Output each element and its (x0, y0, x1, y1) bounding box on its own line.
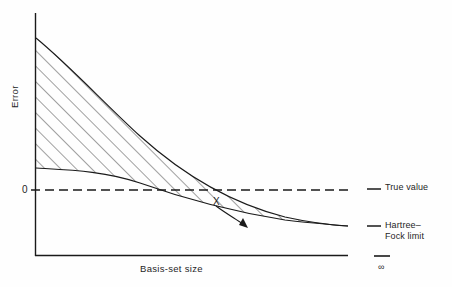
x-axis-label: Basis-set size (140, 263, 203, 274)
x-axis-infinity-tick-label: ∞ (378, 262, 385, 272)
chart-canvas (0, 0, 452, 287)
correlation-energy-hatched-region (36, 38, 348, 226)
legend-label-true-value: True value (385, 182, 428, 192)
y-axis-label: Error (9, 85, 20, 108)
legend-label-hartree-fock-line1: Hartree– (385, 220, 421, 230)
y-axis-zero-tick-label: 0 (22, 184, 28, 195)
basis-set-convergence-figure: Error 0 Basis-set size X True value Hart… (0, 0, 452, 287)
correlation-energy-annotation-label: X (213, 196, 220, 207)
legend-label-hartree-fock-line2: Fock limit (385, 231, 424, 241)
